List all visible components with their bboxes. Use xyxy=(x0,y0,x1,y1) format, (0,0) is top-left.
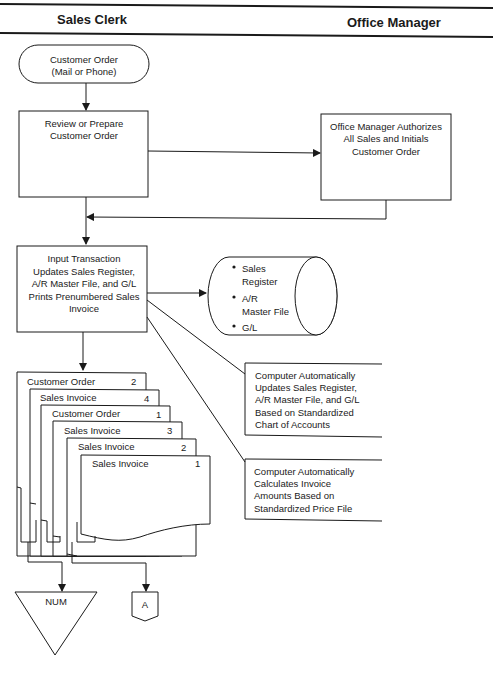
annotation2-line4: Standardized Price File xyxy=(254,503,352,514)
storage-item-master-file: Master File xyxy=(242,306,289,317)
disk-storage: Sales Register A/R Master File G/L xyxy=(208,257,337,335)
start-label-line2: (Mail or Phone) xyxy=(52,66,117,77)
annotation-1: Computer Automatically Updates Sales Reg… xyxy=(245,363,382,437)
header-rule xyxy=(0,33,493,37)
storage-item-ar: A/R xyxy=(242,293,258,304)
document-copy-number: 1 xyxy=(156,409,161,420)
start-terminator: Customer Order (Mail or Phone) xyxy=(19,45,149,83)
authorize-process: Office Manager Authorizes All Sales and … xyxy=(321,114,451,200)
lane-title-sales-clerk: Sales Clerk xyxy=(57,12,128,27)
annotation1-line5: Chart of Accounts xyxy=(255,419,330,430)
start-label-line1: Customer Order xyxy=(50,54,118,65)
off-page-connector-a: A xyxy=(132,592,158,621)
annotation1-line1: Computer Automatically xyxy=(255,370,356,381)
file-numerical: NUM xyxy=(15,592,97,655)
arrow-authorize-return xyxy=(87,200,386,219)
lane-title-office-manager: Office Manager xyxy=(347,15,441,30)
file-label: NUM xyxy=(45,596,67,607)
top-rule xyxy=(0,4,493,8)
annotation-2: Computer Automatically Calculates Invoic… xyxy=(245,459,382,521)
bullet-icon xyxy=(232,295,235,298)
storage-item-sales: Sales xyxy=(242,263,266,274)
input-label-line2: Updates Sales Register, xyxy=(33,266,135,277)
document-copy-number: 2 xyxy=(181,442,186,453)
document-name: Sales Invoice xyxy=(78,441,135,452)
connector-label: A xyxy=(142,599,149,610)
annotation2-line1: Computer Automatically xyxy=(254,466,355,477)
bullet-icon xyxy=(232,265,235,268)
document-name: Customer Order xyxy=(52,408,120,419)
document-name: Sales Invoice xyxy=(64,425,121,436)
authorize-label-line3: Customer Order xyxy=(352,146,420,157)
authorize-label-line1: Office Manager Authorizes xyxy=(330,121,442,132)
input-label-line1: Input Transaction xyxy=(48,253,121,264)
authorize-label-line2: All Sales and Initials xyxy=(343,133,428,144)
input-label-line5: Invoice xyxy=(69,303,99,314)
document-copy-number: 1 xyxy=(195,458,200,469)
input-label-line3: A/R Master File, and G/L xyxy=(32,278,137,289)
flowchart: Sales Clerk Office Manager Customer Orde… xyxy=(0,0,493,675)
annotation1-line3: A/R Master File, and G/L xyxy=(255,394,360,405)
annotation2-line3: Amounts Based on xyxy=(254,490,334,501)
bullet-icon xyxy=(232,324,235,327)
document-stack: Customer Order 2 Sales Invoice 4 Custome… xyxy=(17,372,210,556)
document-copy-number: 2 xyxy=(131,376,136,387)
storage-item-register: Register xyxy=(242,276,277,287)
document-name: Sales Invoice xyxy=(92,458,149,469)
storage-item-gl: G/L xyxy=(242,322,257,333)
review-label-line2: Customer Order xyxy=(50,130,118,141)
document-copy-number: 4 xyxy=(144,393,149,404)
document-copy-number: 3 xyxy=(167,425,172,436)
annotation1-line4: Based on Standardized xyxy=(255,407,354,418)
annotation1-line2: Updates Sales Register, xyxy=(255,382,357,393)
input-label-line4: Prints Prenumbered Sales xyxy=(29,291,140,302)
document-name: Customer Order xyxy=(27,376,95,387)
annotation2-line2: Calculates Invoice xyxy=(254,478,331,489)
arrow-review-to-authorize xyxy=(148,151,320,153)
document-name: Sales Invoice xyxy=(40,392,97,403)
input-process: Input Transaction Updates Sales Register… xyxy=(17,246,147,332)
review-process: Review or Prepare Customer Order xyxy=(19,111,148,197)
review-label-line1: Review or Prepare xyxy=(45,118,124,129)
